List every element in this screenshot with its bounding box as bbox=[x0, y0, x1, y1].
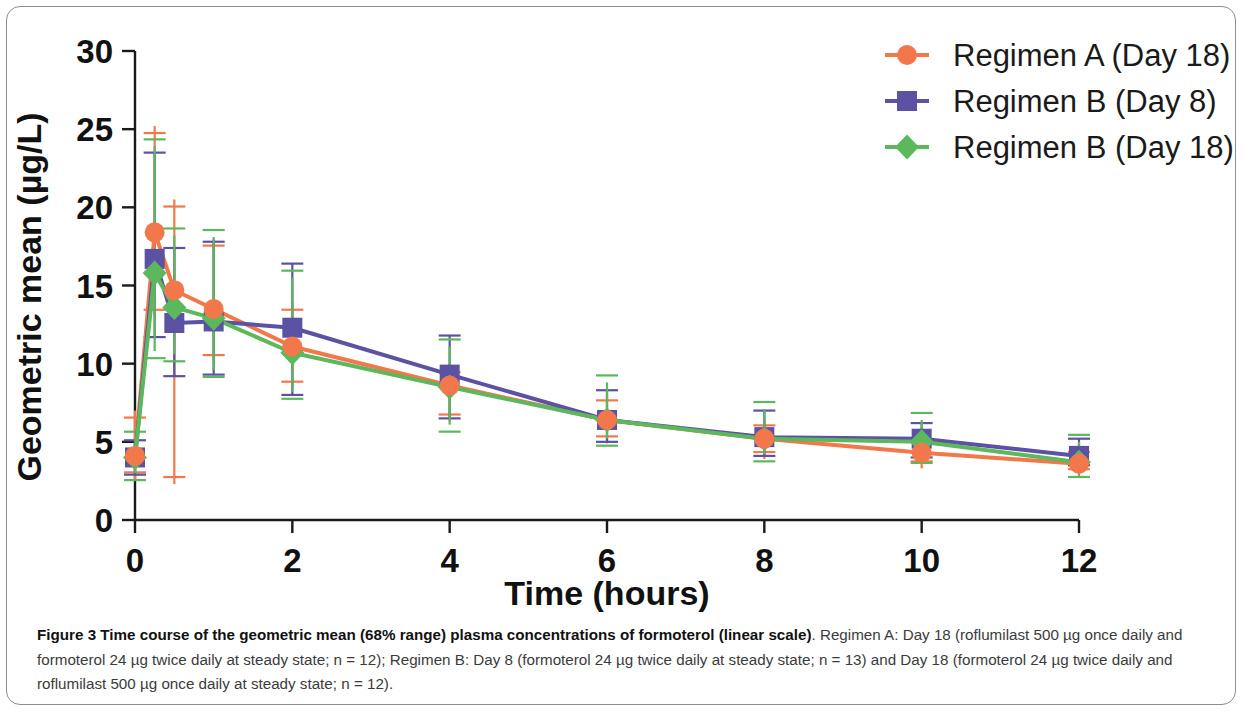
marker-square bbox=[282, 318, 302, 338]
figure-frame: 051015202530 024681012 Geometric mean (µ… bbox=[6, 6, 1236, 705]
x-tick-label: 12 bbox=[1061, 542, 1098, 579]
caption-bold-title: Figure 3 Time course of the geometric me… bbox=[37, 626, 812, 643]
marker-square bbox=[897, 91, 917, 111]
marker-circle bbox=[754, 429, 774, 449]
y-tick-label: 25 bbox=[76, 111, 113, 148]
x-tick-label: 2 bbox=[283, 542, 301, 579]
y-tick-label: 15 bbox=[76, 268, 113, 305]
marker-circle bbox=[1069, 454, 1089, 474]
x-axis-ticks: 024681012 bbox=[126, 520, 1098, 579]
figure-caption: Figure 3 Time course of the geometric me… bbox=[37, 623, 1217, 697]
marker-circle bbox=[897, 45, 917, 65]
y-axis-title: Geometric mean (µg/L) bbox=[10, 112, 48, 481]
marker-circle bbox=[440, 376, 460, 396]
legend-label: Regimen A (Day 18) bbox=[953, 38, 1230, 73]
y-tick-label: 10 bbox=[76, 346, 113, 383]
x-tick-label: 4 bbox=[440, 542, 459, 579]
legend-item[interactable]: Regimen B (Day 8) bbox=[885, 84, 1217, 119]
marker-circle bbox=[204, 299, 224, 319]
chart-plot-area: 051015202530 024681012 Geometric mean (µ… bbox=[7, 7, 1239, 619]
legend-label: Regimen B (Day 8) bbox=[953, 84, 1217, 119]
x-tick-label: 8 bbox=[755, 542, 773, 579]
legend-label: Regimen B (Day 18) bbox=[953, 130, 1234, 165]
legend-item[interactable]: Regimen A (Day 18) bbox=[885, 38, 1230, 73]
marker-diamond bbox=[895, 135, 919, 160]
y-tick-label: 20 bbox=[76, 189, 113, 226]
chart-axes bbox=[135, 51, 1079, 520]
x-tick-label: 10 bbox=[903, 542, 940, 579]
y-tick-label: 5 bbox=[95, 424, 113, 461]
marker-circle bbox=[125, 446, 145, 466]
x-tick-label: 0 bbox=[126, 542, 144, 579]
marker-circle bbox=[164, 280, 184, 300]
formoterol-concentration-line-chart: 051015202530 024681012 Geometric mean (µ… bbox=[7, 7, 1239, 619]
y-tick-label: 30 bbox=[76, 33, 113, 70]
x-axis-title: Time (hours) bbox=[504, 574, 709, 612]
marker-circle bbox=[597, 410, 617, 430]
marker-circle bbox=[145, 222, 165, 242]
chart-legend: Regimen A (Day 18)Regimen B (Day 8)Regim… bbox=[885, 38, 1234, 165]
marker-circle bbox=[912, 443, 932, 463]
legend-item[interactable]: Regimen B (Day 18) bbox=[885, 130, 1234, 165]
y-tick-label: 0 bbox=[95, 502, 113, 539]
marker-circle bbox=[282, 336, 302, 356]
